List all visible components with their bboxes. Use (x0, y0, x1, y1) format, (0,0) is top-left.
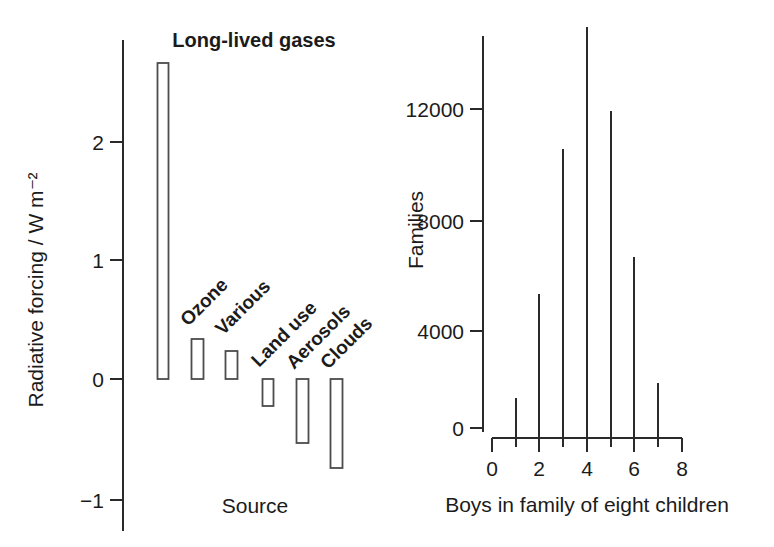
boys-in-family-svg: 12000 8000 4000 0 0 2 4 6 8 (400, 0, 774, 547)
radiative-forcing-svg: 2 1 0 −1 Radiative forcing / W m⁻² Sourc… (0, 0, 400, 547)
chart-boys-in-family: 12000 8000 4000 0 0 2 4 6 8 (400, 0, 774, 547)
range-bar-land-use (263, 379, 274, 406)
x-tick-label-4: 4 (581, 457, 593, 480)
x-tick-label-6: 6 (628, 457, 640, 480)
y-tick-label-0: 0 (92, 368, 104, 391)
y-axis-title: Radiative forcing / W m⁻² (24, 172, 47, 407)
y-tick-label-2: 2 (92, 131, 104, 154)
x-axis-ticks (492, 438, 682, 452)
y-axis-ticks (470, 109, 483, 428)
x-axis-title: Source (222, 494, 289, 517)
figure-panel-pair: 2 1 0 −1 Radiative forcing / W m⁻² Sourc… (0, 0, 774, 547)
chart-radiative-forcing: 2 1 0 −1 Radiative forcing / W m⁻² Sourc… (0, 0, 400, 547)
range-bars (158, 63, 343, 468)
range-bar-aerosols (297, 379, 309, 443)
range-bar-clouds (331, 379, 343, 468)
y-tick-label-4000: 4000 (417, 320, 464, 343)
x-tick-label-0: 0 (486, 457, 498, 480)
y-tick-label-0: 0 (452, 417, 464, 440)
y-axis-ticks (110, 142, 123, 500)
y-tick-label-neg1: −1 (80, 489, 104, 512)
range-bar-long-lived-gases (158, 63, 169, 379)
range-bar-ozone (192, 339, 204, 379)
spike-series (516, 27, 658, 438)
x-tick-label-8: 8 (676, 457, 688, 480)
range-bar-labels: Ozone Various Land use Aerosols Clouds (176, 274, 376, 373)
x-axis-title: Boys in family of eight children (445, 493, 729, 516)
y-axis-title: Families (404, 191, 427, 269)
y-tick-label-1: 1 (92, 249, 104, 272)
range-bar-various (226, 351, 238, 379)
y-tick-label-12000: 12000 (406, 98, 464, 121)
chart-title-long-lived-gases: Long-lived gases (172, 29, 335, 51)
x-tick-label-2: 2 (533, 457, 545, 480)
